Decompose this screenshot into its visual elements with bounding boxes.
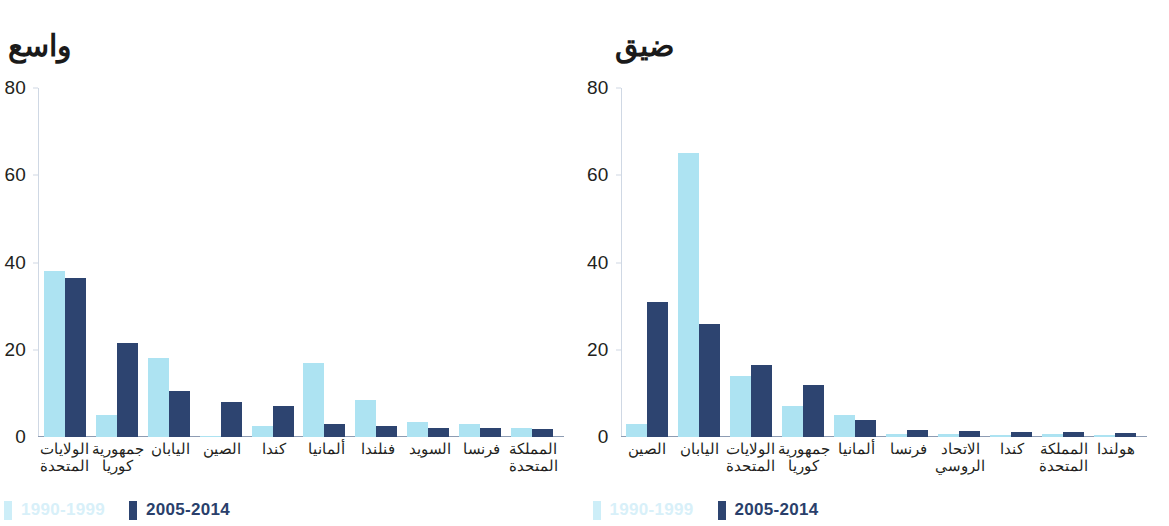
- bar-dark: [1063, 432, 1084, 437]
- bar-light: [626, 424, 647, 437]
- bar-light: [511, 428, 532, 437]
- bar-light: [1094, 435, 1115, 437]
- x-axis-label: الولايات المتحدة: [725, 441, 777, 475]
- x-axis-label: اليابان: [145, 441, 197, 475]
- bar-light: [782, 406, 803, 437]
- bar-light: [148, 358, 169, 437]
- legend-item-1990-1999[interactable]: 1990-1999: [593, 500, 694, 520]
- bar-dark: [324, 424, 345, 437]
- x-axis-label: فرنسا: [455, 441, 507, 475]
- bar-group: [777, 88, 829, 437]
- x-axis-label: السويد: [404, 441, 456, 475]
- bar-light: [200, 436, 221, 437]
- bar-group: [1037, 88, 1089, 437]
- chart-title-narrow: ضيق: [615, 27, 674, 65]
- bar-dark: [907, 430, 928, 437]
- x-axis-label: ألمانيا: [300, 441, 352, 475]
- bar-dark: [1011, 432, 1032, 437]
- legend-label-1990-1999: 1990-1999: [610, 500, 694, 520]
- bar-dark: [647, 302, 668, 437]
- bar-dark: [273, 406, 294, 437]
- bar-light: [886, 434, 907, 437]
- bar-group: [247, 88, 299, 437]
- legend-item-2005-2014[interactable]: 2005-2014: [129, 500, 230, 520]
- bar-dark: [376, 426, 397, 437]
- bar-dark: [699, 324, 720, 437]
- legend-item-2005-2014[interactable]: 2005-2014: [718, 500, 819, 520]
- legend-swatch-icon-1990-1999: [593, 501, 601, 520]
- y-tick-0: 0: [15, 426, 26, 448]
- bar-light: [303, 363, 324, 437]
- bar-groups-narrow: [622, 88, 1141, 437]
- bar-light: [678, 153, 699, 437]
- bar-light: [834, 415, 855, 437]
- x-axis-label: ألمانيا: [831, 441, 883, 475]
- bar-light: [44, 271, 65, 437]
- bar-dark: [169, 391, 190, 437]
- bar-dark: [855, 420, 876, 437]
- bar-group: [91, 88, 143, 437]
- x-axis-label: كندا: [248, 441, 300, 475]
- y-tick-20: 20: [587, 339, 609, 361]
- bar-dark: [221, 402, 242, 437]
- bar-dark: [117, 343, 138, 437]
- x-axis-label: فنلندا: [352, 441, 404, 475]
- chart-panel-wide: واسع 80 60 40 20 0 الولايات المتحدةجمهور…: [0, 0, 585, 526]
- figure-root: واسع 80 60 40 20 0 الولايات المتحدةجمهور…: [0, 0, 1169, 526]
- legend-item-1990-1999[interactable]: 1990-1999: [4, 500, 105, 520]
- bar-group: [829, 88, 881, 437]
- y-tick-0: 0: [598, 426, 609, 448]
- x-axis-label: المملكة المتحدة: [507, 441, 559, 475]
- bar-light: [938, 434, 959, 437]
- bar-light: [459, 424, 480, 437]
- bar-group: [673, 88, 725, 437]
- bar-light: [407, 422, 428, 437]
- bar-light: [990, 435, 1011, 437]
- bar-dark: [1115, 433, 1136, 437]
- y-tick-20: 20: [4, 339, 26, 361]
- plot-area-narrow: 80 60 40 20 0: [621, 88, 1141, 437]
- bar-group: [402, 88, 454, 437]
- chart-panel-narrow: ضيق 80 60 40 20 0 الصيناليابانالولايات ا…: [585, 0, 1169, 526]
- legend-label-2005-2014: 2005-2014: [146, 500, 230, 520]
- bar-dark: [480, 428, 501, 437]
- bar-group: [725, 88, 777, 437]
- bar-group: [299, 88, 351, 437]
- x-axis-label: المملكة المتحدة: [1038, 441, 1090, 475]
- bar-group: [933, 88, 985, 437]
- bar-group: [985, 88, 1037, 437]
- bar-group: [506, 88, 558, 437]
- y-tick-80: 80: [587, 77, 609, 99]
- plot-area-wide: 80 60 40 20 0: [38, 88, 558, 437]
- x-axis-label: هولندا: [1090, 441, 1142, 475]
- bar-dark: [428, 428, 449, 437]
- x-axis-label: الصين: [622, 441, 674, 475]
- bar-dark: [65, 278, 86, 437]
- y-tick-60: 60: [587, 164, 609, 186]
- bar-dark: [532, 429, 553, 437]
- bar-group: [350, 88, 402, 437]
- x-axis-labels-wide: الولايات المتحدةجمهورية كوريااليابانالصي…: [39, 441, 559, 475]
- y-tick-60: 60: [4, 164, 26, 186]
- chart-title-wide: واسع: [8, 27, 71, 65]
- x-axis-label: جمهورية كوريا: [91, 441, 145, 475]
- legend-swatch-icon-2005-2014: [718, 501, 726, 520]
- bar-dark: [959, 431, 980, 437]
- bar-light: [252, 426, 273, 437]
- x-axis-label: جمهورية كوريا: [777, 441, 831, 475]
- legend-label-2005-2014: 2005-2014: [735, 500, 819, 520]
- legend-narrow: 1990-1999 2005-2014: [593, 500, 819, 520]
- x-axis-label: كندا: [986, 441, 1038, 475]
- legend-swatch-icon-1990-1999: [4, 501, 12, 520]
- y-tick-40: 40: [587, 252, 609, 274]
- bar-group: [143, 88, 195, 437]
- bar-group: [195, 88, 247, 437]
- bar-light: [96, 415, 117, 437]
- bar-groups-wide: [39, 88, 558, 437]
- x-axis-label: فرنسا: [883, 441, 935, 475]
- x-axis-label: الصين: [197, 441, 249, 475]
- x-axis-label: اليابان: [673, 441, 725, 475]
- y-tick-40: 40: [4, 252, 26, 274]
- y-tick-80: 80: [4, 77, 26, 99]
- legend-wide: 1990-1999 2005-2014: [4, 500, 230, 520]
